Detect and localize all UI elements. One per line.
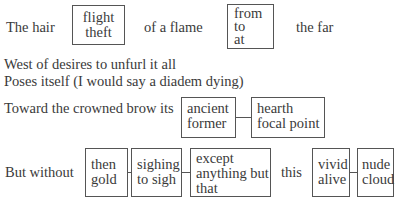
option-box-from-to-at[interactable]: from to at bbox=[227, 4, 274, 49]
line1-text-c: the far bbox=[296, 20, 333, 35]
line5-text-a: But without bbox=[5, 165, 74, 180]
line1-text-b: of a flame bbox=[144, 20, 203, 35]
option-box-except-anything-but-that[interactable]: except anything but that bbox=[190, 148, 271, 197]
connector-line bbox=[236, 117, 251, 118]
option-box-ancient-former[interactable]: ancient former bbox=[181, 97, 236, 138]
option-word: focal point bbox=[257, 116, 319, 131]
option-box-sighing-to-sigh[interactable]: sighing to sigh bbox=[131, 148, 182, 197]
option-word: anything but bbox=[196, 166, 265, 181]
option-word: cloud bbox=[362, 172, 388, 187]
option-word: alive bbox=[318, 172, 344, 187]
line4-text: Toward the crowned brow its bbox=[4, 101, 174, 116]
line5-text-b: this bbox=[281, 165, 302, 180]
option-word: hearth bbox=[257, 101, 319, 116]
line2-text: West of desires to unfurl it all bbox=[4, 57, 176, 72]
option-box-flight-theft[interactable]: flight theft bbox=[72, 5, 125, 45]
option-word: nude bbox=[362, 157, 388, 172]
option-word: sighing bbox=[137, 157, 176, 172]
connector-line bbox=[182, 172, 190, 173]
option-box-hearth-focal-point[interactable]: hearth focal point bbox=[251, 97, 325, 138]
option-word: vivid bbox=[318, 157, 344, 172]
option-word: flight bbox=[78, 10, 119, 25]
option-box-nude-cloud[interactable]: nude cloud bbox=[357, 148, 394, 197]
option-word: theft bbox=[78, 25, 119, 40]
option-box-vivid-alive[interactable]: vivid alive bbox=[312, 148, 350, 197]
option-word: that bbox=[196, 181, 265, 196]
line1-text-a: The hair bbox=[6, 20, 55, 35]
option-word: except bbox=[196, 151, 265, 166]
option-word: at bbox=[234, 33, 267, 46]
line3-text: Poses itself (I would say a diadem dying… bbox=[4, 74, 244, 89]
option-word: gold bbox=[91, 172, 122, 187]
connector-line bbox=[350, 172, 357, 173]
option-word: former bbox=[187, 116, 230, 131]
option-word: to sigh bbox=[137, 172, 176, 187]
option-box-then-gold[interactable]: then gold bbox=[85, 148, 128, 197]
option-word: ancient bbox=[187, 101, 230, 116]
option-word: then bbox=[91, 157, 122, 172]
